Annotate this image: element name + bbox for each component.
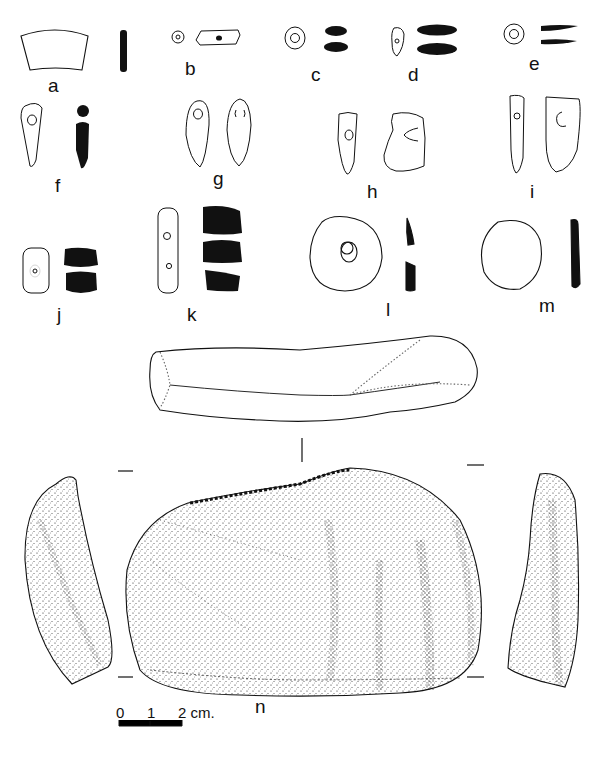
artifact-c (285, 26, 348, 52)
label-d: d (408, 65, 419, 84)
artifact-m (481, 220, 580, 290)
artifact-e (504, 24, 578, 44)
label-j: j (57, 305, 61, 324)
label-b: b (185, 59, 196, 78)
artifact-i (510, 95, 580, 173)
artifact-l (310, 217, 415, 291)
artifact-a (21, 30, 127, 72)
artifact-g (186, 99, 251, 167)
label-k: k (187, 305, 197, 324)
scale-tick-1: 1 (147, 705, 155, 720)
artifact-n-face-view (126, 468, 482, 696)
artifact-plate (0, 0, 603, 764)
artifact-d (392, 25, 457, 57)
label-g: g (213, 169, 224, 188)
label-h: h (367, 182, 378, 201)
artifact-b (172, 30, 240, 45)
artifact-k (158, 206, 242, 293)
label-c: c (311, 65, 321, 84)
artifact-j (23, 248, 98, 293)
label-f: f (55, 176, 60, 195)
artifact-n-right-profile (508, 474, 579, 687)
scale-tick-0: 0 (116, 705, 124, 720)
artifact-h (338, 113, 425, 175)
artifact-n-left-profile (25, 477, 112, 684)
label-i: i (530, 182, 534, 201)
artifact-n-top-view (150, 336, 478, 421)
label-a: a (48, 76, 59, 95)
scale-tick-2: 2 cm. (178, 705, 215, 720)
label-l: l (386, 300, 390, 319)
artifact-f (21, 103, 89, 168)
label-e: e (529, 54, 540, 73)
label-n: n (255, 697, 266, 716)
label-m: m (539, 296, 555, 315)
